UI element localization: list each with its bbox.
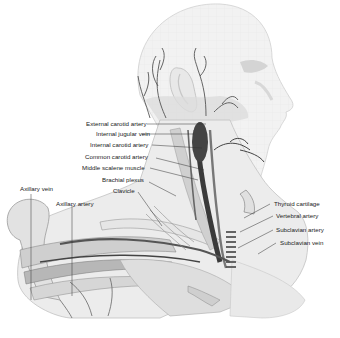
label-subclavian-artery: Subclavian artery — [276, 226, 324, 233]
label-thyroid-cartilage: Thyroid cartilage — [274, 200, 320, 207]
label-clavicle: Clavicle — [113, 187, 135, 194]
anatomy-illustration — [0, 0, 340, 338]
label-internal-carotid-artery: Internal carotid artery — [90, 141, 148, 148]
label-axillary-artery: Axillary artery — [56, 200, 93, 207]
label-axillary-vein: Axillary vein — [20, 185, 53, 192]
label-middle-scalene-muscle: Middle scalene muscle — [82, 164, 145, 171]
label-vertebral-artery: Vertebral artery — [276, 212, 318, 219]
label-common-carotid-artery: Common carotid artery — [85, 153, 148, 160]
label-subclavian-vein: Subclavian vein — [280, 239, 323, 246]
label-brachial-plexus: Brachial plexus — [102, 176, 144, 183]
label-external-carotid-artery: External carotid artery — [86, 120, 147, 127]
label-internal-jugular-vein: Internal jugular vein — [96, 130, 150, 137]
